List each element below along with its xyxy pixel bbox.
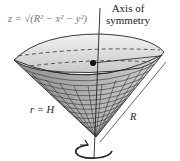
sphere-equation-label: z = √(R² − x² − y²) [8,13,87,24]
cone-figure [0,0,180,161]
center-point [90,60,96,66]
r-equals-h-label: r = H [30,104,54,115]
axis-of-symmetry-label: Axis of symmetry [106,2,150,26]
axis-label-line2: symmetry [106,14,150,26]
slant-radius-label: R [130,111,136,122]
spherical-cap [14,34,164,73]
axis-label-line1: Axis of [106,2,150,14]
